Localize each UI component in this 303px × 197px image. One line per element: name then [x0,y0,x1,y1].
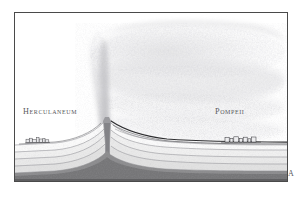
pompeii-buildings [221,137,261,142]
figure-letter: A [288,170,294,178]
plate-inner: Herculaneum Pompeii [15,13,287,181]
plate-frame: Herculaneum Pompeii [14,12,288,182]
herculaneum-buildings [25,137,50,142]
settlements-layer [15,13,287,181]
label-herculaneum: Herculaneum [23,108,77,116]
label-pompeii: Pompeii [215,108,244,116]
figure-root: Herculaneum Pompeii A [0,0,303,197]
